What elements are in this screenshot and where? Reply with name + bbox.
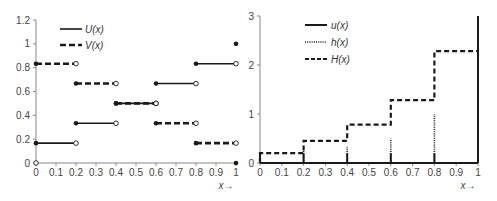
y-tick-label: 0 (248, 158, 254, 169)
legend: u(x)h(x)H(x) (305, 20, 350, 65)
x-tick-label: 0.2 (297, 167, 311, 178)
figure: 00.10.20.30.40.50.60.70.80.9100.20.40.60… (0, 0, 497, 201)
series-H (260, 51, 478, 163)
x-tick-label: 0.5 (362, 167, 376, 178)
legend-label: u(x) (331, 20, 348, 31)
y-tick-label: 1 (248, 109, 254, 120)
y-tick-label: 3 (248, 11, 254, 22)
x-tick-label: 0.4 (340, 167, 354, 178)
legend-label: H(x) (331, 54, 350, 65)
series-u (260, 16, 478, 163)
x-tick-label: 0.3 (318, 167, 332, 178)
x-tick-label: 0 (257, 167, 263, 178)
legend-label: h(x) (331, 37, 348, 48)
series-h (260, 51, 478, 163)
x-axis-label: x→ (460, 180, 476, 191)
x-tick-label: 0.6 (384, 167, 398, 178)
x-tick-label: 1 (475, 167, 481, 178)
y-tick-label: 2 (248, 60, 254, 71)
x-tick-label: 0.1 (275, 167, 289, 178)
x-tick-label: 0.7 (406, 167, 420, 178)
x-tick-label: 0.9 (449, 167, 463, 178)
chart-right-uhH: 00.10.20.30.40.50.60.70.80.910123x→u(x)h… (0, 0, 497, 201)
x-tick-label: 0.8 (427, 167, 441, 178)
